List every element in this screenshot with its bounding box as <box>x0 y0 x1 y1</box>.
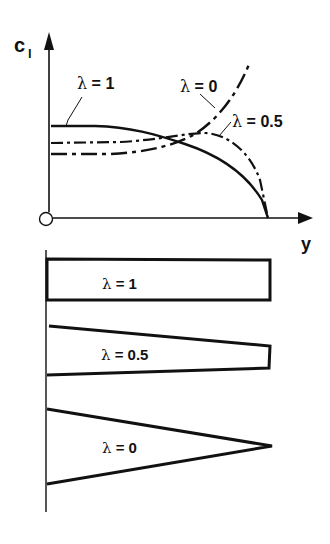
cl-axis-label: c <box>14 34 25 56</box>
label-lambda-0: λ = 0 <box>180 77 217 108</box>
lift-distribution-diagram: c l y λ = 1 λ = 0 λ = 0.5 λ = 1 λ = 0.5 … <box>0 0 330 544</box>
origin-circle-icon <box>40 213 53 226</box>
svg-text:λ = 0: λ = 0 <box>180 77 217 96</box>
cl-axis-subscript: l <box>28 46 32 61</box>
curve-lambda-1 <box>51 126 268 218</box>
svg-text:λ = 0.5: λ = 0.5 <box>101 346 148 364</box>
svg-text:λ = 1: λ = 1 <box>102 275 137 293</box>
x-axis-arrow-icon <box>298 212 313 224</box>
cl-axis <box>44 32 54 212</box>
planform-rectangle: λ = 1 <box>47 259 270 300</box>
y-span-axis <box>53 212 313 224</box>
label-lambda-1: λ = 1 <box>66 74 114 126</box>
planform-trapezoid: λ = 0.5 <box>47 326 270 375</box>
y-axis-arrow-icon <box>44 32 54 50</box>
svg-text:λ = 0: λ = 0 <box>102 439 137 457</box>
planform-triangle: λ = 0 <box>47 409 272 484</box>
curve-lambda-0.5 <box>51 133 268 218</box>
label-lambda-0.5: λ = 0.5 <box>219 112 283 136</box>
svg-text:λ = 0.5: λ = 0.5 <box>232 112 283 131</box>
svg-text:λ = 1: λ = 1 <box>77 74 114 93</box>
y-axis-label: y <box>301 234 311 254</box>
